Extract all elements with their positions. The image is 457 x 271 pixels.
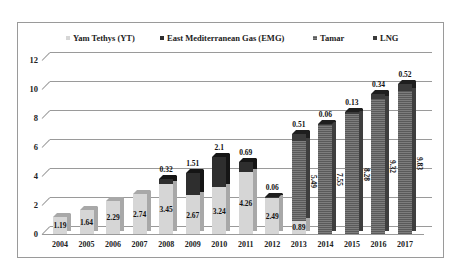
data-label: 3.45 xyxy=(155,205,177,214)
bar-segment-tamar xyxy=(318,125,332,234)
data-label: 2.67 xyxy=(182,211,204,220)
x-axis-tick-label: 2015 xyxy=(337,240,367,249)
x-axis-tick-label: 2012 xyxy=(257,240,287,249)
data-label: 0.89 xyxy=(288,223,310,232)
data-label: 1.64 xyxy=(76,218,98,227)
data-label: 0.69 xyxy=(235,148,257,157)
x-axis-tick-label: 2005 xyxy=(72,240,102,249)
x-axis-tick-label: 2013 xyxy=(284,240,314,249)
x-axis-tick-label: 2006 xyxy=(98,240,128,249)
x-axis-tick-label: 2008 xyxy=(151,240,181,249)
gridline-depth xyxy=(42,81,51,90)
x-axis-line xyxy=(42,234,424,235)
y-axis-tick-label: 12 xyxy=(26,55,38,65)
y-axis-tick-label: 8 xyxy=(26,113,38,123)
data-label-vertical: 8.28 xyxy=(362,168,371,181)
x-axis-tick-label: 2016 xyxy=(363,240,393,249)
data-label: 2.1 xyxy=(208,143,230,152)
bar-segment-emg xyxy=(186,173,200,195)
x-axis-tick-label: 2004 xyxy=(45,240,75,249)
data-label: 1.51 xyxy=(182,159,204,168)
y-axis-tick-label: 6 xyxy=(26,142,38,152)
bar-segment-lng xyxy=(265,197,279,198)
bar-segment-tamar xyxy=(398,91,412,234)
data-label: 0.32 xyxy=(155,165,177,174)
data-label-vertical: 7.55 xyxy=(335,173,344,186)
bar-segment-tamar xyxy=(292,141,306,221)
y-axis-tick-label: 0 xyxy=(26,229,38,239)
bar-segment-tamar xyxy=(345,114,359,234)
gridline-depth xyxy=(42,52,51,61)
gridline-depth xyxy=(42,168,51,177)
bar-segment-lng xyxy=(398,84,412,92)
data-label-vertical: 9.32 xyxy=(389,160,398,173)
gridline-depth xyxy=(42,110,51,119)
plot-area: 02468101220041.1920051.6420062.2920072.7… xyxy=(0,0,457,271)
bar-segment-lng xyxy=(292,134,306,141)
y-axis-tick-label: 2 xyxy=(26,200,38,210)
x-axis-tick-label: 2011 xyxy=(231,240,261,249)
data-label: 0.34 xyxy=(367,80,389,89)
bar-side xyxy=(226,154,230,184)
data-label: 1.19 xyxy=(49,221,71,230)
gridline-depth xyxy=(42,197,51,206)
y-axis-tick-label: 10 xyxy=(26,84,38,94)
bar-segment-emg xyxy=(159,179,173,184)
bar-segment-tamar xyxy=(371,99,385,234)
x-axis-tick-label: 2017 xyxy=(390,240,420,249)
data-label: 0.06 xyxy=(261,183,283,192)
data-label: 0.06 xyxy=(314,110,336,119)
bar-segment-lng xyxy=(371,94,385,99)
y-axis-tick-label: 4 xyxy=(26,171,38,181)
data-label: 0.52 xyxy=(394,70,416,79)
bar-segment-lng xyxy=(345,112,359,114)
data-label: 0.13 xyxy=(341,98,363,107)
x-axis-tick-label: 2010 xyxy=(204,240,234,249)
data-label: 2.29 xyxy=(102,213,124,222)
x-axis-tick-label: 2009 xyxy=(178,240,208,249)
bar-segment-emg xyxy=(239,162,253,172)
data-label: 3.24 xyxy=(208,207,230,216)
bar-side xyxy=(200,170,204,192)
bar-segment-emg xyxy=(212,157,226,187)
data-label: 0.51 xyxy=(288,120,310,129)
data-label: 4.26 xyxy=(235,199,257,208)
x-axis-tick-label: 2007 xyxy=(125,240,155,249)
data-label: 2.49 xyxy=(261,212,283,221)
gridline-depth xyxy=(42,139,51,148)
data-label: 2.74 xyxy=(129,210,151,219)
x-axis-tick-label: 2014 xyxy=(310,240,340,249)
gridline xyxy=(50,52,432,53)
data-label-vertical: 5.49 xyxy=(309,175,318,188)
data-label-vertical: 9.83 xyxy=(415,157,424,170)
